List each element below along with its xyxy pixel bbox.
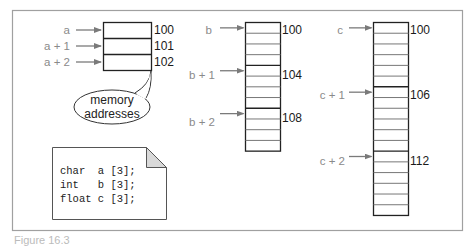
address-b: 100 bbox=[282, 23, 302, 37]
address-b2: 108 bbox=[282, 111, 302, 125]
memory-addresses-callout: memory addresses bbox=[74, 71, 151, 124]
address-a1: 101 bbox=[154, 39, 174, 53]
folded-corner-icon bbox=[147, 148, 167, 168]
code-line-1: char a [3]; bbox=[60, 165, 136, 177]
array-a-box bbox=[104, 23, 152, 71]
address-a2: 102 bbox=[154, 55, 174, 69]
pointer-label-a1: a + 1 bbox=[44, 40, 70, 52]
pointer-label-c2: c + 2 bbox=[320, 155, 345, 167]
address-c2: 112 bbox=[410, 154, 429, 168]
pointer-label-c: c bbox=[337, 24, 343, 36]
callout-line-1: memory bbox=[90, 93, 133, 107]
pointer-label-a2: a + 2 bbox=[44, 56, 70, 68]
pointer-label-c1: c + 1 bbox=[320, 89, 345, 101]
pointer-label-b2: b + 2 bbox=[189, 116, 215, 128]
pointer-label-b1: b + 1 bbox=[189, 69, 215, 81]
address-b1: 104 bbox=[282, 68, 302, 82]
address-c: 100 bbox=[410, 23, 430, 37]
pointer-label-b: b bbox=[206, 24, 212, 36]
address-c1: 106 bbox=[410, 88, 430, 102]
pointer-label-a: a bbox=[64, 24, 71, 36]
array-c bbox=[349, 23, 409, 216]
code-note: char a [3]; int b [3]; float c [3]; bbox=[53, 148, 167, 220]
address-a: 100 bbox=[154, 23, 174, 37]
array-a: a a + 1 a + 2 100 101 102 bbox=[44, 23, 174, 71]
code-line-3: float c [3]; bbox=[60, 193, 136, 205]
code-line-2: int b [3]; bbox=[60, 179, 136, 191]
array-b bbox=[220, 23, 281, 152]
callout-line-2: addresses bbox=[84, 107, 139, 121]
figure-caption: Figure 16.3 bbox=[14, 234, 70, 246]
